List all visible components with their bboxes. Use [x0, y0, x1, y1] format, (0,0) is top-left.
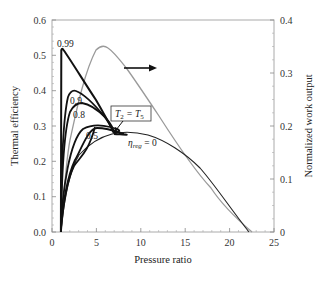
- plot-frame: [52, 20, 274, 232]
- y-axis-right: [270, 20, 274, 232]
- curve-eta-0.8: [61, 103, 114, 232]
- x-tick-labels: 0 5 10 15 20 25: [50, 237, 280, 248]
- y-tick-labels-right: 0 0.1 0.2 0.3 0.4: [280, 15, 293, 238]
- x-tick-1: 5: [94, 237, 99, 248]
- y2-tick-4: 0.4: [280, 15, 293, 26]
- arrow-right-icon: [149, 65, 157, 72]
- x-tick-4: 20: [225, 237, 235, 248]
- y-axis-left: [52, 20, 56, 232]
- y-tick-1: 0.1: [34, 191, 47, 202]
- label-0.8: 0.8: [73, 110, 85, 120]
- x-tick-0: 0: [50, 237, 55, 248]
- eta-reg-label: ηreg = 0: [128, 138, 157, 150]
- y-tick-4: 0.4: [34, 85, 47, 96]
- y-tick-3: 0.3: [34, 121, 47, 132]
- y2-tick-0: 0: [280, 227, 285, 238]
- y2-tick-3: 0.3: [280, 68, 293, 79]
- y-tick-labels-left: 0.0 0.1 0.2 0.3 0.4 0.5 0.6: [34, 15, 47, 238]
- t2-t5-annotation: T2 = T5: [111, 106, 151, 133]
- x-tick-2: 10: [136, 237, 146, 248]
- y-axis-title: Thermal efficiency: [9, 85, 20, 166]
- y-tick-0: 0.0: [34, 227, 47, 238]
- right-axis-arrow: [124, 65, 157, 72]
- x-axis-title: Pressure ratio: [134, 254, 191, 265]
- y-tick-2: 0.2: [34, 156, 47, 167]
- curve-eta-0.5: [61, 127, 127, 232]
- y2-tick-2: 0.2: [280, 121, 293, 132]
- label-0.9: 0.9: [70, 96, 82, 106]
- label-0.99: 0.99: [57, 39, 74, 49]
- y-tick-5: 0.5: [34, 50, 47, 61]
- label-0.5: 0.5: [86, 131, 98, 141]
- chart-canvas: 0.0 0.1 0.2 0.3 0.4 0.5 0.6 0 0.1 0.2 0.…: [0, 0, 323, 284]
- y-tick-6: 0.6: [34, 15, 47, 26]
- y2-axis-title: Normalized work output: [303, 74, 314, 177]
- x-tick-5: 25: [269, 237, 279, 248]
- x-axis: [52, 228, 274, 232]
- x-tick-3: 15: [180, 237, 190, 248]
- y2-tick-1: 0.1: [280, 174, 293, 185]
